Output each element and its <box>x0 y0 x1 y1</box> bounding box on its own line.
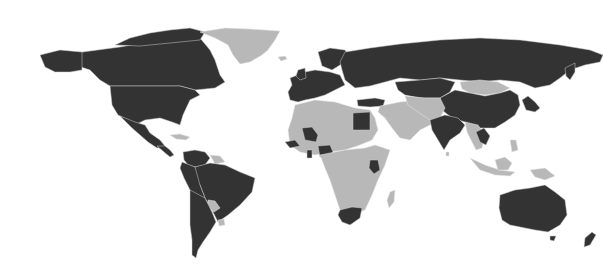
world-map: CanadaCanadian Arctic IslandsAlaska (USA… <box>0 0 603 276</box>
region-egypt: Egypt <box>353 112 370 130</box>
region-sri-lanka: Sri Lanka <box>446 152 449 156</box>
region-ghana: Ghana <box>307 150 312 158</box>
region-uruguay: Uruguay <box>218 219 225 226</box>
